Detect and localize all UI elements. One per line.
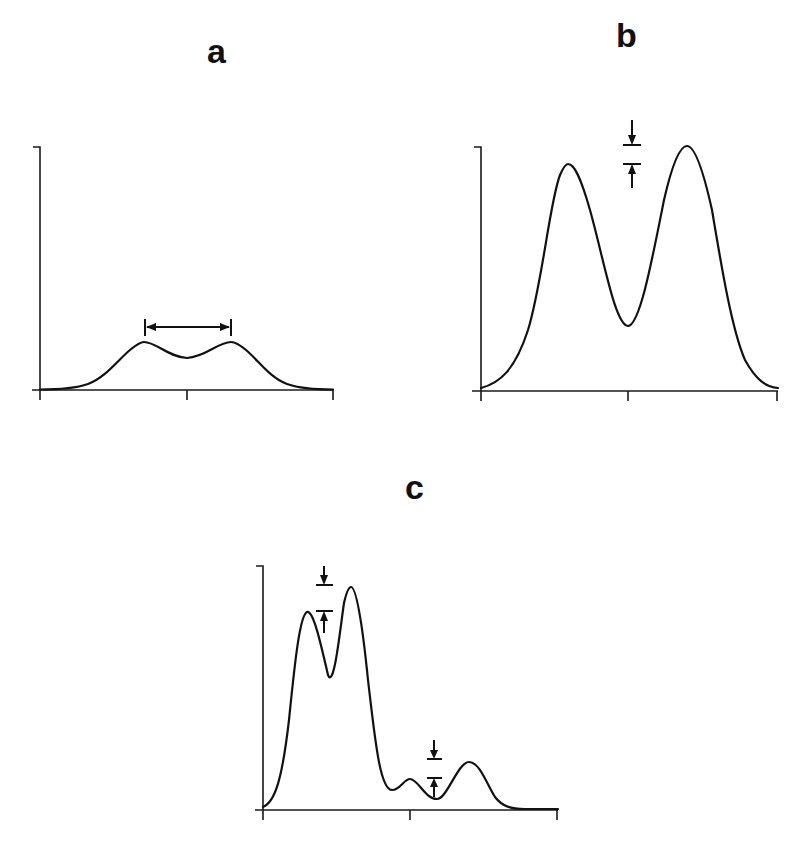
chart-c-x-ticks — [263, 810, 557, 820]
chart-c-y-axis — [256, 566, 263, 810]
chart-a-separation-arrow — [145, 319, 231, 336]
chart-b-height-difference-arrows — [623, 120, 641, 188]
chart-c-curve — [263, 587, 558, 809]
chart-a-y-axis — [33, 147, 40, 390]
chart-c-height-difference-arrows-1 — [316, 566, 333, 633]
chart-a — [32, 147, 333, 400]
chart-c-height-difference-arrows-2 — [427, 740, 442, 797]
chart-a-curve — [40, 342, 333, 390]
chart-c-axes — [255, 566, 558, 820]
chart-a-axes — [32, 147, 333, 400]
chart-a-x-ticks — [40, 390, 333, 400]
chart-b-x-ticks — [481, 391, 777, 401]
chart-b-y-axis — [474, 147, 481, 391]
figure-canvas — [0, 0, 804, 841]
chart-b-axes — [472, 147, 778, 401]
chart-c — [255, 566, 558, 820]
chart-b — [472, 120, 778, 401]
chart-b-curve — [481, 146, 778, 388]
